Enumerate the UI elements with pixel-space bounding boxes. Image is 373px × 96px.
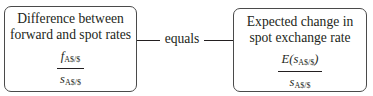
left-denominator-sub: A$/$ <box>65 78 81 87</box>
left-numerator-sub: A$/$ <box>64 55 80 64</box>
right-numerator-suffix: ) <box>314 52 318 66</box>
right-numerator-prefix: E( <box>282 52 294 66</box>
left-fraction: fA$/$ sA$/$ <box>57 49 84 90</box>
left-title-line1: Difference between <box>5 11 136 27</box>
connector-line-right <box>204 40 233 41</box>
left-denominator: sA$/$ <box>57 69 84 90</box>
right-denominator-sub: A$/$ <box>294 81 310 90</box>
equals-label: equals <box>160 31 204 47</box>
right-numerator-sub: A$/$ <box>298 58 314 67</box>
right-title-line2: spot exchange rate <box>234 30 366 46</box>
forward-spot-difference-box: Difference between forward and spot rate… <box>4 6 137 92</box>
right-box-title: Expected change in spot exchange rate <box>234 14 366 46</box>
right-fraction: E(sA$/$) sA$/$ <box>278 52 323 93</box>
right-title-line1: Expected change in <box>234 14 366 30</box>
connector-line-left <box>137 40 160 41</box>
left-numerator: fA$/$ <box>57 49 84 69</box>
expected-change-box: Expected change in spot exchange rate E(… <box>233 8 367 92</box>
left-box-title: Difference between forward and spot rate… <box>5 11 136 43</box>
right-numerator: E(sA$/$) <box>278 52 323 72</box>
left-title-line2: forward and spot rates <box>5 27 136 43</box>
right-denominator: sA$/$ <box>278 72 323 93</box>
